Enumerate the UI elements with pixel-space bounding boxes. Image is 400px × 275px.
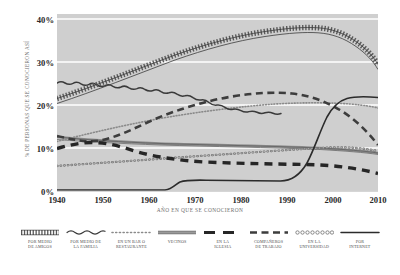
x-tick-2010: 2010 [358, 196, 398, 205]
legend-item-vecinos[interactable]: VECINOS [155, 228, 199, 244]
legend-item-companeros-trabajo[interactable]: COMPAÑEROS DE TRABAJO [247, 228, 291, 249]
legend-label-universidad: EN LA UNIVERSIDAD [299, 239, 329, 249]
legend-swatch-dotted-icon [111, 228, 151, 237]
x-tick-2000: 2000 [313, 196, 353, 205]
legend-swatch-medium-dashed-icon [249, 228, 289, 237]
x-tick-1940: 1940 [37, 196, 77, 205]
legend-item-familia[interactable]: POR MEDIO DE LA FAMILIA [64, 228, 108, 249]
legend-label-internet: POR INTERNET [349, 239, 370, 249]
x-tick-1960: 1960 [129, 196, 169, 205]
legend-swatch-hatched-icon [20, 228, 60, 237]
legend-item-amigos[interactable]: POR MEDIO DE AMIGOS [18, 228, 62, 249]
legend-item-universidad[interactable]: EN LA UNIVERSIDAD [292, 228, 336, 249]
legend-swatch-thick-dashed-icon [203, 228, 243, 237]
legend-label-iglesia: EN LA IGLESIA [214, 239, 231, 249]
legend-label-bar-restaurante: EN UN BAR O RESTAURANTE [116, 239, 147, 249]
chart-legend: POR MEDIO DE AMIGOS POR MEDIO DE LA FAMI… [18, 228, 382, 270]
legend-item-internet[interactable]: POR INTERNET [338, 228, 382, 249]
legend-label-vecinos: VECINOS [168, 239, 187, 244]
legend-swatch-wavy-icon [66, 228, 106, 237]
legend-label-familia: POR MEDIO DE LA FAMILIA [70, 239, 101, 249]
x-tick-1970: 1970 [175, 196, 215, 205]
legend-swatch-solid-icon [340, 228, 380, 237]
legend-swatch-band-icon [157, 228, 197, 237]
x-tick-1950: 1950 [83, 196, 123, 205]
x-tick-1980: 1980 [221, 196, 261, 205]
chart-page: % DE PERSONAS QUE SE CONOCIERON ASÍ 40% … [0, 0, 400, 275]
legend-label-amigos: POR MEDIO DE AMIGOS [28, 239, 52, 249]
legend-item-bar-restaurante[interactable]: EN UN BAR O RESTAURANTE [109, 228, 153, 249]
legend-label-companeros-trabajo: COMPAÑEROS DE TRABAJO [254, 239, 283, 249]
x-axis-title: AÑO EN QUE SE CONOCIERON [0, 207, 400, 213]
x-tick-1990: 1990 [267, 196, 307, 205]
legend-item-iglesia[interactable]: EN LA IGLESIA [201, 228, 245, 249]
legend-swatch-circle-chain-icon [294, 228, 334, 237]
